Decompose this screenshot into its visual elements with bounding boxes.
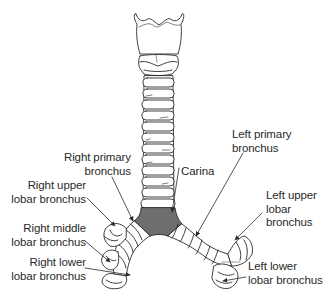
label-line: Right lower (0, 256, 86, 270)
label-right-primary-bronchus: Right primary bronchus (40, 151, 131, 178)
trachea (141, 76, 175, 210)
label-line: bronchus (266, 216, 317, 230)
label-line: lobar (266, 203, 317, 217)
label-right-lower-lobar-bronchus: Right lower lobar bronchus (0, 256, 86, 283)
arrow-right-primary (112, 177, 133, 221)
label-line: Left primary (232, 128, 292, 142)
right-bronchi (102, 221, 150, 289)
larynx (134, 14, 184, 76)
label-line: bronchus (40, 165, 131, 179)
label-line: Right middle (0, 222, 86, 236)
label-line: lobar bronchus (0, 270, 86, 284)
label-right-middle-lobar-bronchus: Right middle lobar bronchus (0, 222, 86, 249)
label-left-upper-lobar-bronchus: Left upper lobar bronchus (266, 189, 317, 230)
label-carina: Carina (181, 165, 214, 179)
label-line: lobar bronchus (248, 274, 323, 288)
arrow-left-upper (235, 213, 262, 240)
arrow-right-upper (87, 198, 115, 226)
label-line: lobar bronchus (0, 236, 86, 250)
label-line: Right upper (0, 179, 86, 193)
label-left-lower-lobar-bronchus: Left lower lobar bronchus (248, 260, 323, 287)
left-bronchi (168, 224, 253, 289)
label-line: Left lower (248, 260, 323, 274)
label-line: Left upper (266, 189, 317, 203)
label-line: Carina (181, 165, 214, 179)
label-right-upper-lobar-bronchus: Right upper lobar bronchus (0, 179, 86, 206)
label-line: lobar bronchus (0, 193, 86, 207)
label-line: Right primary (40, 151, 131, 165)
label-left-primary-bronchus: Left primary bronchus (232, 128, 292, 155)
label-line: bronchus (232, 142, 292, 156)
